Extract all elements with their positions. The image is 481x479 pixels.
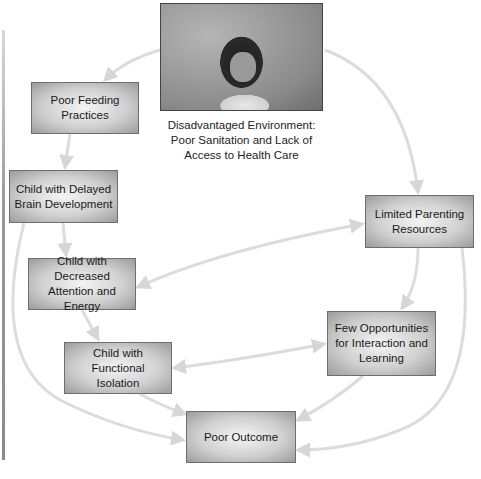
node-functional-isolation: Child with Functional Isolation <box>64 342 172 394</box>
environment-caption: Disadvantaged Environment: Poor Sanitati… <box>150 118 333 163</box>
node-limited-parenting: Limited Parenting Resources <box>365 195 474 248</box>
node-decreased-attention: Child with Decreased Attention and Energ… <box>28 258 136 310</box>
child-face <box>230 52 256 82</box>
arrow-attention-parenting <box>138 224 362 287</box>
node-poor-feeding: Poor Feeding Practices <box>31 82 139 134</box>
arrow-opportunities-to-outcome <box>298 376 363 420</box>
arrow-parenting-to-opportunities <box>402 248 418 308</box>
arrow-brain-to-attention <box>63 223 66 255</box>
arrow-env-to-parenting <box>325 50 418 192</box>
arrow-env-to-feeding <box>105 50 160 80</box>
arrow-attention-to-isolation <box>82 310 98 339</box>
node-few-opportunities: Few Opportunities for Interaction and Le… <box>327 311 436 376</box>
node-poor-outcome: Poor Outcome <box>186 411 296 463</box>
node-delayed-brain: Child with Delayed Brain Development <box>9 170 118 223</box>
arrow-feeding-to-brain <box>65 134 70 167</box>
arrow-isolation-to-outcome <box>140 394 185 414</box>
arrow-isolation-opportunities <box>174 344 324 368</box>
child-photo <box>160 3 323 111</box>
